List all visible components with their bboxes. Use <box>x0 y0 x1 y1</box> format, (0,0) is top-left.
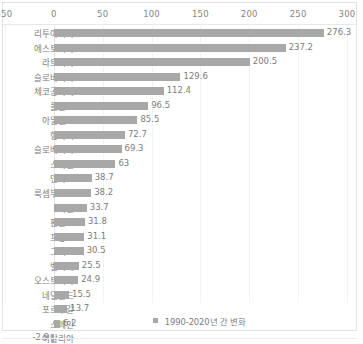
chart-bar-rows: 리투아니아276.3에스토니아237.2라트비아200.5슬로바키아129.6체… <box>0 26 363 344</box>
bar-track: 25.5 <box>0 259 363 274</box>
chart-bar-row: 네덜란드15.5 <box>0 288 363 303</box>
bar <box>54 87 164 95</box>
chart-bar-row: 덴마크38.7 <box>0 171 363 186</box>
x-tick-label: 250 <box>290 9 307 19</box>
bar-track: 112.4 <box>0 84 363 99</box>
chart-bar-row: 프랑스31.1 <box>0 230 363 245</box>
chart-bar-row: 핀란드31.8 <box>0 215 363 230</box>
bar-value-label: 63 <box>118 158 129 168</box>
bar <box>54 291 69 299</box>
bar <box>54 131 125 139</box>
bar-track: 38.2 <box>0 186 363 201</box>
bar <box>54 116 138 124</box>
bar <box>54 218 85 226</box>
bar <box>54 262 79 270</box>
bar-track: 237.2 <box>0 41 363 56</box>
chart-bar-row: 슬로베니아69.3 <box>0 142 363 157</box>
bar-value-label: 24.9 <box>81 274 100 284</box>
bar-value-label: 276.3 <box>327 27 351 37</box>
bar-value-label: 33.7 <box>90 202 109 212</box>
bar-track: 31.1 <box>0 230 363 245</box>
chart-bar-row: 헝가리72.7 <box>0 128 363 143</box>
bar-track: 33.7 <box>0 201 363 216</box>
figure-bottom-rule <box>2 338 357 339</box>
bar-track: 30.5 <box>0 244 363 259</box>
chart-bar-row: 에스토니아237.2 <box>0 41 363 56</box>
bar-value-label: 200.5 <box>253 56 277 66</box>
bar-chart-figure: -50050100150200250300 리투아니아276.3에스토니아237… <box>0 0 363 344</box>
bar <box>54 160 116 168</box>
chart-bar-row: 그리스30.5 <box>0 244 363 259</box>
bar-value-label: 25.5 <box>82 260 101 270</box>
bar-value-label: 85.5 <box>140 114 159 124</box>
chart-bar-row: 벨기에25.5 <box>0 259 363 274</box>
bar <box>54 145 122 153</box>
bar <box>54 29 324 37</box>
x-tick-label: 0 <box>51 9 57 19</box>
bar <box>54 73 181 81</box>
x-tick-label: 200 <box>241 9 258 19</box>
x-tick-label: 100 <box>143 9 160 19</box>
bar-track: 276.3 <box>0 26 363 41</box>
bar <box>54 44 286 52</box>
bar-track: 15.5 <box>0 288 363 303</box>
bar-value-label: 112.4 <box>167 85 191 95</box>
x-tick-label: 150 <box>192 9 209 19</box>
square-swatch-icon <box>153 318 158 323</box>
bar-track: 200.5 <box>0 55 363 70</box>
chart-bar-row: 오스트리아24.9 <box>0 273 363 288</box>
bar <box>54 276 78 284</box>
bar-track: 85.5 <box>0 113 363 128</box>
legend-entry: 1990-2020년 간 변화 <box>153 310 247 329</box>
chart-bar-row: 독일33.7 <box>0 201 363 216</box>
bar <box>54 233 84 241</box>
x-tick-label: 50 <box>97 9 108 19</box>
chart-legend: 1990-2020년 간 변화 <box>0 310 363 329</box>
bar-value-label: 15.5 <box>72 289 91 299</box>
chart-bar-row: 체코공화국112.4 <box>0 84 363 99</box>
bar-value-label: 129.6 <box>183 71 207 81</box>
x-axis-tick-labels: -50050100150200250300 <box>0 9 363 23</box>
x-tick-label: 300 <box>339 9 356 19</box>
chart-bar-row: 슬로바키아129.6 <box>0 70 363 85</box>
legend-label: 1990-2020년 간 변화 <box>165 317 246 327</box>
bar <box>54 247 84 255</box>
bar-value-label: 38.2 <box>94 187 113 197</box>
bar <box>54 174 92 182</box>
bar-track: 96.5 <box>0 99 363 114</box>
chart-bar-row: 룩셈부르크38.2 <box>0 186 363 201</box>
bar-track: 129.6 <box>0 70 363 85</box>
bar <box>54 58 250 66</box>
bar-value-label: 96.5 <box>151 100 170 110</box>
bar-track: 24.9 <box>0 273 363 288</box>
bar-track: 69.3 <box>0 142 363 157</box>
chart-bar-row: 라트비아200.5 <box>0 55 363 70</box>
chart-bar-row: 폴란드96.5 <box>0 99 363 114</box>
chart-bar-row: 리투아니아276.3 <box>0 26 363 41</box>
bar-track: 31.8 <box>0 215 363 230</box>
bar <box>54 102 148 110</box>
x-tick-label: -50 <box>0 9 12 19</box>
bar <box>54 189 91 197</box>
bar-track: 63 <box>0 157 363 172</box>
bar <box>54 204 87 212</box>
x-axis-separator-line <box>3 24 356 25</box>
bar-track: 72.7 <box>0 128 363 143</box>
bar-value-label: 30.5 <box>87 245 106 255</box>
bar-value-label: 237.2 <box>289 42 313 52</box>
chart-bar-row: 스웨덴63 <box>0 157 363 172</box>
bar-track: 38.7 <box>0 171 363 186</box>
chart-bar-row: 아일랜드85.5 <box>0 113 363 128</box>
bar-value-label: 38.7 <box>95 172 114 182</box>
bar-value-label: 72.7 <box>128 129 147 139</box>
bar-value-label: 31.8 <box>88 216 107 226</box>
bar-value-label: 69.3 <box>125 143 144 153</box>
bar-value-label: 31.1 <box>87 231 106 241</box>
